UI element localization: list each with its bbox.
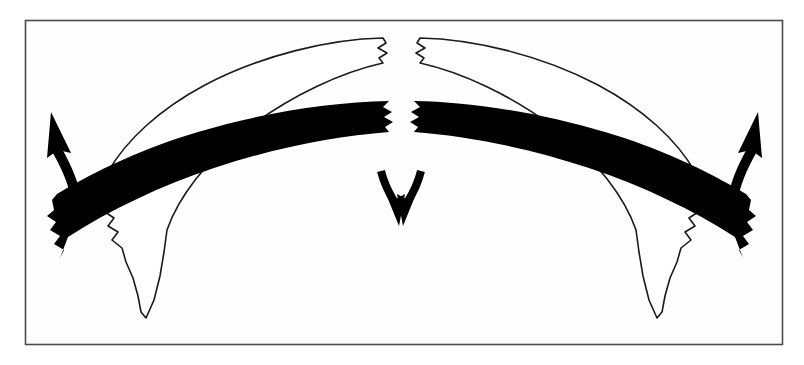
figure-root: Folded and extended layered sequence (an…	[0, 0, 804, 365]
cross-section-diagram	[0, 0, 804, 365]
